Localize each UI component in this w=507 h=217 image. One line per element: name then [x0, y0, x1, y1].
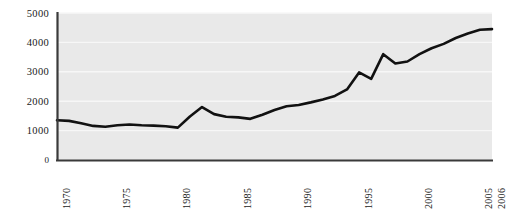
chart-figure: 010002000300040005000 197019751980198519…	[0, 0, 507, 217]
x-tick-label: 1975	[122, 188, 132, 209]
y-tick-label: 2000	[9, 96, 49, 107]
y-tick-label: 5000	[9, 8, 49, 19]
line-chart-svg	[0, 0, 507, 217]
x-tick-label: 2005	[484, 188, 494, 209]
x-tick-label: 1990	[303, 188, 313, 209]
x-tick-label: 1995	[364, 188, 374, 209]
y-tick-label: 4000	[9, 37, 49, 48]
x-tick-label: 1970	[62, 188, 72, 209]
y-tick-label: 0	[9, 156, 49, 165]
x-tick-label: 2000	[424, 188, 434, 209]
x-tick-label: 1980	[182, 188, 192, 209]
y-tick-label: 1000	[9, 125, 49, 136]
y-tick-label: 3000	[9, 66, 49, 77]
plot-area-background	[57, 13, 492, 160]
x-tick-label: 2006	[497, 188, 507, 209]
x-tick-label: 1985	[243, 188, 253, 209]
